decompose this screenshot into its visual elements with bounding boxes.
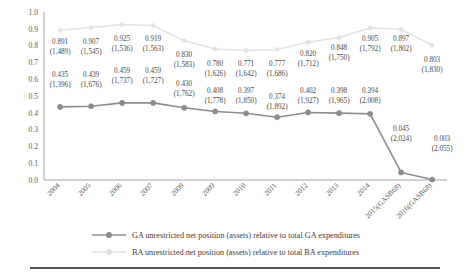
y-tick-label: 0.4 <box>29 109 39 118</box>
y-tick-label: 1.0 <box>29 8 39 17</box>
data-labels-ga: 0.435(1,396)0.439(1,676)0.459(1,737)0.45… <box>50 67 454 153</box>
data-label-secondary: (1,536) <box>112 45 134 53</box>
x-axis-tick-group: 2004200520062007200820092010201120122013… <box>45 181 434 221</box>
data-label-secondary: (1,892) <box>267 103 289 111</box>
y-tick-label: 0.6 <box>29 75 39 84</box>
data-label-value: 0.439 <box>83 71 100 79</box>
data-label-value: 0.780 <box>207 60 224 68</box>
data-label-value: 0.905 <box>362 35 379 43</box>
data-label-secondary: (1,830) <box>422 66 444 74</box>
data-label-value: 0.830 <box>176 51 193 59</box>
data-point <box>399 27 403 31</box>
data-point <box>213 47 217 51</box>
data-label-value: 0.374 <box>269 93 286 101</box>
y-axis-tick-group: 0.00.10.20.30.40.50.60.70.80.91.0 <box>29 8 39 185</box>
data-label-value: 0.430 <box>176 80 193 88</box>
data-label-value: 0.897 <box>393 35 410 43</box>
data-label-secondary: (1,545) <box>81 48 103 56</box>
data-label-secondary: (1,792) <box>360 45 382 53</box>
data-point <box>430 43 434 47</box>
data-label-secondary: (1,563) <box>143 45 165 53</box>
data-label-secondary: (1,642) <box>236 70 258 78</box>
data-point <box>337 35 341 39</box>
data-point <box>120 100 125 105</box>
data-label-secondary: (1,676) <box>81 81 103 89</box>
data-label-value: 0.408 <box>207 87 224 95</box>
chart-figure: 0.00.10.20.30.40.50.60.70.80.91.0 0.891(… <box>0 0 468 277</box>
data-point <box>275 47 279 51</box>
data-label-value: 0.397 <box>238 87 255 95</box>
x-tick-label: 2011 <box>262 181 279 198</box>
data-point <box>368 26 372 30</box>
data-label-secondary: (1,626) <box>205 70 227 78</box>
data-label-secondary: (1,965) <box>329 97 351 105</box>
data-label-value: 0.398 <box>331 87 348 95</box>
data-label-value: 0.771 <box>238 60 255 68</box>
data-labels-ba: 0.891(1,489)0.907(1,545)0.925(1,536)0.91… <box>50 35 444 78</box>
data-label-value: 0.891 <box>52 38 69 46</box>
data-label-secondary: (1,737) <box>112 77 134 85</box>
y-tick-label: 0.9 <box>29 25 39 34</box>
data-label-value: 0.820 <box>300 50 317 58</box>
data-label-value: 0.803 <box>424 56 441 64</box>
data-point <box>120 23 124 27</box>
x-tick-label: 2014 <box>355 181 372 198</box>
data-label-value: 0.045 <box>393 125 410 133</box>
x-tick-label: 2012 <box>293 181 310 198</box>
x-tick-label: 2010 <box>231 181 248 198</box>
data-label-value: 0.848 <box>331 44 348 52</box>
data-label-value: 0.394 <box>362 87 379 95</box>
y-tick-label: 0.3 <box>29 125 39 134</box>
data-point <box>244 48 248 52</box>
data-point <box>337 111 342 116</box>
data-label-value: 0.435 <box>52 71 69 79</box>
axis-lines <box>44 12 447 180</box>
data-point <box>182 38 186 42</box>
data-label-secondary: (2,055) <box>432 145 454 153</box>
data-label-value: 0.459 <box>114 67 131 75</box>
data-point <box>306 40 310 44</box>
legend-marker <box>106 249 111 254</box>
y-tick-label: 0.1 <box>29 159 39 168</box>
data-point <box>306 110 311 115</box>
data-label-value: 0.402 <box>300 87 317 95</box>
y-tick-label: 0.5 <box>29 92 39 101</box>
data-label-value: 0.003 <box>434 135 451 143</box>
data-label-value: 0.907 <box>83 38 100 46</box>
data-point <box>275 115 280 120</box>
chart-legend: GA unrestricted net position (assets) re… <box>92 231 360 257</box>
data-label-secondary: (2,008) <box>360 97 382 105</box>
data-label-secondary: (1,850) <box>236 97 258 105</box>
data-point <box>430 177 435 182</box>
data-label-secondary: (2,024) <box>391 135 413 143</box>
y-tick-label: 0.2 <box>29 142 39 151</box>
data-label-value: 0.777 <box>269 60 286 68</box>
data-point <box>151 24 155 28</box>
data-label-value: 0.925 <box>114 35 131 43</box>
series-ga <box>58 100 435 182</box>
x-tick-label: 2006 <box>107 181 124 198</box>
data-point <box>58 28 62 32</box>
data-point <box>244 111 249 116</box>
line-chart: 0.00.10.20.30.40.50.60.70.80.91.0 0.891(… <box>0 0 468 277</box>
legend-label: BA unrestricted net position (assets) re… <box>132 248 359 257</box>
x-tick-label: 2007 <box>138 181 155 198</box>
data-label-secondary: (1,802) <box>391 45 413 53</box>
y-tick-label: 0.0 <box>29 176 39 185</box>
data-label-secondary: (1,686) <box>267 70 289 78</box>
x-tick-label: 2004 <box>45 181 62 198</box>
data-point <box>182 105 187 110</box>
x-tick-label: 2008 <box>169 181 186 198</box>
data-point <box>58 104 63 109</box>
data-label-secondary: (1,583) <box>174 61 196 69</box>
data-label-secondary: (1,927) <box>298 97 320 105</box>
x-tick-label: 2013 <box>324 181 341 198</box>
x-tick-label: 2005 <box>76 181 93 198</box>
data-label-secondary: (1,712) <box>298 60 320 68</box>
data-point <box>399 170 404 175</box>
data-label-secondary: (1,750) <box>329 54 351 62</box>
data-label-secondary: (1,727) <box>143 77 165 85</box>
data-label-value: 0.459 <box>145 67 162 75</box>
data-label-secondary: (1,778) <box>205 97 227 105</box>
data-point <box>89 26 93 30</box>
